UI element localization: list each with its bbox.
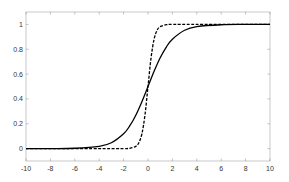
x-tick-label: 8 <box>244 165 248 172</box>
y-tick-label: 1 <box>19 21 23 28</box>
x-tick-label: 0 <box>146 165 150 172</box>
y-tick-label: 0.8 <box>13 46 23 53</box>
x-tick-label: -2 <box>120 165 126 172</box>
y-tick-label: 0.6 <box>13 71 23 78</box>
x-tick-label: 6 <box>219 165 223 172</box>
x-tick-label: -6 <box>72 165 78 172</box>
y-tick-label: 0.2 <box>13 120 23 127</box>
x-tick-label: 10 <box>266 165 274 172</box>
x-tick-label: -10 <box>21 165 31 172</box>
y-tick-label: 0 <box>19 145 23 152</box>
x-tick-label: -4 <box>96 165 102 172</box>
x-tick-label: 2 <box>170 165 174 172</box>
x-tick-label: 4 <box>195 165 199 172</box>
sigmoid-chart: -10-8-6-4-20246810 00.20.40.60.81 <box>0 0 289 182</box>
y-tick-label: 0.4 <box>13 95 23 102</box>
x-tick-label: -8 <box>47 165 53 172</box>
